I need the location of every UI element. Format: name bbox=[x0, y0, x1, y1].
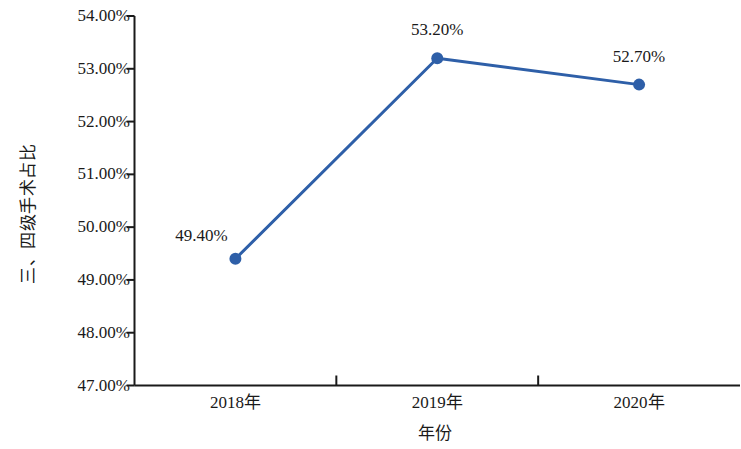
data-point-label: 52.70% bbox=[579, 48, 699, 65]
x-axis-tick-label: 2018年 bbox=[145, 393, 325, 413]
data-point-label: 49.40% bbox=[141, 227, 261, 244]
line-chart: 54.00%53.00%52.00%51.00%50.00%49.00%48.0… bbox=[0, 0, 741, 449]
x-axis-title: 年份 bbox=[345, 424, 525, 444]
x-axis-tick-label: 2020年 bbox=[549, 393, 729, 413]
x-axis-tick-label: 2019年 bbox=[347, 393, 527, 413]
x-axis-tick-labels: 2018年2019年2020年 bbox=[0, 0, 741, 449]
data-point-label: 53.20% bbox=[377, 21, 497, 38]
